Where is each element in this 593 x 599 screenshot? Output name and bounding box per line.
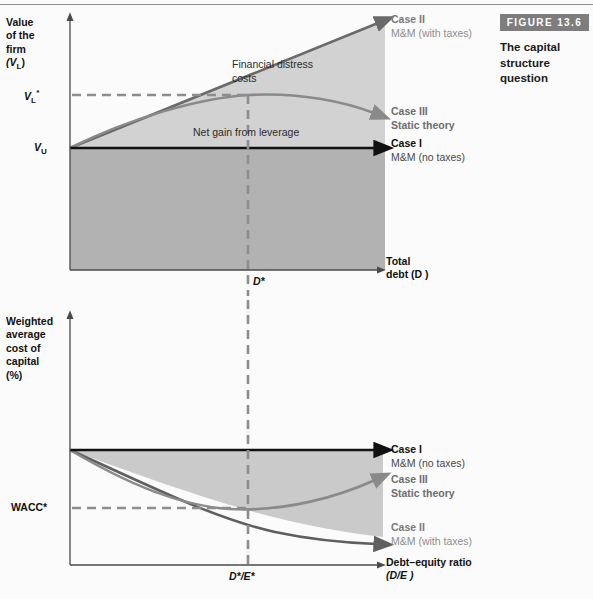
legend-top-case3-subtitle: Static theory xyxy=(391,119,455,133)
top-y-axis-title-line3: firm xyxy=(6,43,66,56)
tick-d-star: D* xyxy=(253,275,265,287)
tick-dstar-estar: D*/E* xyxy=(229,570,255,582)
top-y-axis-title-line1: Value xyxy=(6,16,66,29)
annotation-net-gain-from-leverage: Net gain from leverage xyxy=(193,126,299,140)
annotation-financial-distress-costs: Financial distress costs xyxy=(232,58,352,86)
bottom-y-axis-title-line5: (%) xyxy=(6,369,68,382)
figure-page: FIGURE 13.6 The capital structure questi… xyxy=(0,0,593,599)
legend-bottom-case1: Case I M&M (no taxes) xyxy=(391,443,465,470)
bottom-x-axis-title-line1: Debt–equity ratio xyxy=(386,556,496,569)
legend-bottom-case2: Case II M&M (with taxes) xyxy=(391,521,472,548)
legend-top-case1: Case I M&M (no taxes) xyxy=(391,137,465,164)
annotation-fd-line2: costs xyxy=(232,72,352,86)
legend-top-case2-title: Case II xyxy=(391,13,472,27)
top-y-axis-title-line2: of the xyxy=(6,29,66,42)
tick-vl-star-v: V xyxy=(24,90,31,102)
vl-paren-close: ) xyxy=(21,56,25,68)
legend-top-case1-title: Case I xyxy=(391,137,465,151)
legend-top-case2-subtitle: M&M (with taxes) xyxy=(391,27,472,41)
tick-vu-v: V xyxy=(34,141,41,153)
bottom-x-axis-title-line2: (D/E ) xyxy=(386,569,496,582)
area-below-vu xyxy=(70,148,385,270)
legend-bottom-case3-subtitle: Static theory xyxy=(391,487,455,501)
legend-bottom-case3-title: Case III xyxy=(391,473,455,487)
bottom-y-axis-title-line3: cost of xyxy=(6,342,68,355)
tick-vl-star: VL* xyxy=(24,88,39,105)
legend-top-case1-subtitle: M&M (no taxes) xyxy=(391,151,465,165)
top-y-axis-title: Value of the firm (VL) xyxy=(6,16,66,73)
tick-vl-star-sup: * xyxy=(36,88,39,97)
tick-wacc-star: WACC* xyxy=(11,501,47,513)
vl-paren-open: (V xyxy=(6,56,17,68)
bottom-y-axis-title-line4: capital xyxy=(6,355,68,368)
top-y-axis-title-symbol: (VL) xyxy=(6,56,66,72)
top-x-axis-title-line2: debt (D ) xyxy=(386,268,456,281)
bottom-x-axis-title: Debt–equity ratio (D/E ) xyxy=(386,556,496,583)
bottom-y-axis-title: Weighted average cost of capital (%) xyxy=(6,315,68,382)
legend-top-case2: Case II M&M (with taxes) xyxy=(391,13,472,40)
figure-caption: The capital structure question xyxy=(500,40,592,87)
legend-top-case3: Case III Static theory xyxy=(391,105,455,132)
tick-vu: VU xyxy=(34,141,47,156)
top-x-axis-title-line1: Total xyxy=(386,255,456,268)
bottom-y-axis-title-line1: Weighted xyxy=(6,315,68,328)
bottom-y-axis-title-line2: average xyxy=(6,328,68,341)
figure-number-text: FIGURE 13.6 xyxy=(507,17,582,28)
legend-bottom-case2-subtitle: M&M (with taxes) xyxy=(391,535,472,549)
annotation-fd-line1: Financial distress xyxy=(232,58,352,72)
figure-number-badge: FIGURE 13.6 xyxy=(500,14,589,31)
legend-top-case3-title: Case III xyxy=(391,105,455,119)
legend-bottom-case2-title: Case II xyxy=(391,521,472,535)
top-x-axis-title: Total debt (D ) xyxy=(386,255,456,282)
legend-bottom-case1-subtitle: M&M (no taxes) xyxy=(391,457,465,471)
legend-bottom-case3: Case III Static theory xyxy=(391,473,455,500)
legend-bottom-case1-title: Case I xyxy=(391,443,465,457)
tick-vu-sub: U xyxy=(41,147,47,156)
